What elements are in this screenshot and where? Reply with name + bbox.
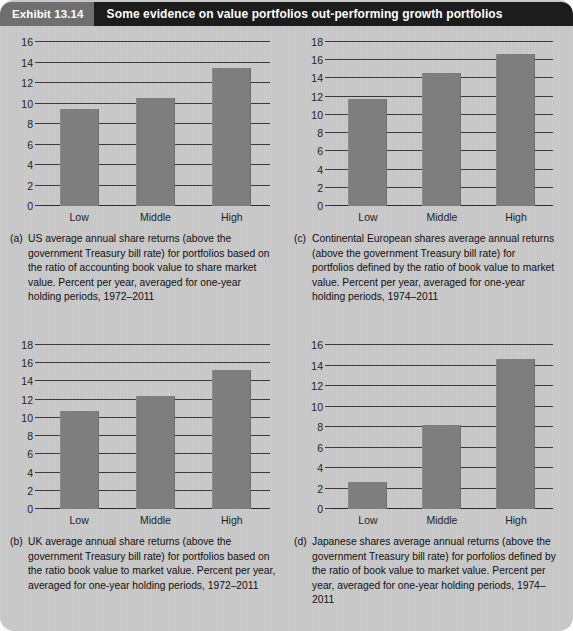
caption-label-b: (b) — [10, 535, 23, 550]
panel-d: 0246810121416 LowMiddleHigh (d) Japanese… — [290, 329, 573, 631]
bar-a-middle — [136, 98, 175, 206]
bar-a-low — [60, 109, 99, 206]
y-tick-label-12: 12 — [311, 380, 323, 392]
panel-c: 024681012141618 LowMiddleHigh (c) Contin… — [290, 26, 573, 329]
bar-slot-high — [479, 345, 553, 509]
y-tick-label-0: 0 — [27, 503, 33, 515]
x-label-a-low: Low — [41, 208, 117, 226]
y-tick-label-8: 8 — [27, 430, 33, 442]
bar-slot-middle — [117, 42, 193, 206]
bar-slot-low — [41, 345, 117, 509]
caption-d: (d) Japanese shares average annual retur… — [290, 535, 573, 608]
x-label-c-high: High — [479, 208, 553, 226]
caption-text-d: Japanese shares average annual returns (… — [312, 535, 559, 608]
bar-b-high — [212, 370, 251, 509]
caption-text-c: Continental European shares average annu… — [312, 232, 559, 305]
caption-label-d: (d) — [294, 535, 307, 550]
x-axis-labels-d: LowMiddleHigh — [331, 511, 553, 529]
y-tick-label-10: 10 — [21, 98, 33, 110]
y-tick-label-8: 8 — [317, 421, 323, 433]
x-axis-labels-b: LowMiddleHigh — [41, 511, 270, 529]
exhibit-title: Some evidence on value portfolios out-pe… — [94, 2, 573, 26]
caption-a: (a) US average annual share returns (abo… — [0, 232, 290, 305]
x-label-c-middle: Middle — [405, 208, 479, 226]
x-label-d-high: High — [479, 511, 553, 529]
x-label-b-high: High — [194, 511, 270, 529]
bar-slot-low — [331, 345, 405, 509]
y-tick-label-6: 6 — [317, 145, 323, 157]
y-tick-label-6: 6 — [317, 442, 323, 454]
plot-area-d: 0246810121416 — [331, 345, 553, 509]
y-tick-label-8: 8 — [317, 127, 323, 139]
x-label-b-middle: Middle — [117, 511, 193, 529]
chart-c: 024681012141618 LowMiddleHigh — [298, 34, 557, 230]
bar-slot-low — [41, 42, 117, 206]
y-tick-label-16: 16 — [21, 36, 33, 48]
panel-a: 0246810121416 LowMiddleHigh (a) US avera… — [0, 26, 290, 329]
y-tick-label-4: 4 — [27, 467, 33, 479]
exhibit-header: Exhibit 13.14 Some evidence on value por… — [0, 2, 573, 26]
bar-series-b — [41, 345, 270, 509]
y-tick-label-10: 10 — [311, 109, 323, 121]
y-tick-label-4: 4 — [27, 159, 33, 171]
y-tick-label-18: 18 — [21, 339, 33, 351]
bar-slot-middle — [405, 345, 479, 509]
bar-c-high — [496, 54, 535, 206]
chart-a: 0246810121416 LowMiddleHigh — [8, 34, 274, 230]
chart-d: 0246810121416 LowMiddleHigh — [298, 337, 557, 533]
y-tick-label-0: 0 — [27, 200, 33, 212]
y-tick-label-4: 4 — [317, 164, 323, 176]
y-tick-label-14: 14 — [21, 57, 33, 69]
y-tick-label-16: 16 — [21, 357, 33, 369]
bar-c-low — [348, 99, 387, 207]
y-tick-label-16: 16 — [311, 54, 323, 66]
x-label-b-low: Low — [41, 511, 117, 529]
bar-d-middle — [422, 425, 461, 509]
plot-area-b: 024681012141618 — [41, 345, 270, 509]
y-tick-label-6: 6 — [27, 448, 33, 460]
bar-slot-middle — [405, 42, 479, 206]
y-tick-label-4: 4 — [317, 462, 323, 474]
bar-a-high — [212, 68, 251, 206]
bar-slot-low — [331, 42, 405, 206]
bar-slot-high — [194, 345, 270, 509]
x-label-a-middle: Middle — [117, 208, 193, 226]
y-tick-label-12: 12 — [21, 394, 33, 406]
exhibit-figure: Exhibit 13.14 Some evidence on value por… — [0, 0, 573, 631]
y-tick-label-2: 2 — [27, 180, 33, 192]
bar-series-d — [331, 345, 553, 509]
y-tick-label-12: 12 — [21, 77, 33, 89]
chart-b: 024681012141618 LowMiddleHigh — [8, 337, 274, 533]
bar-series-a — [41, 42, 270, 206]
x-axis-labels-a: LowMiddleHigh — [41, 208, 270, 226]
y-tick-label-2: 2 — [317, 483, 323, 495]
x-label-d-low: Low — [331, 511, 405, 529]
plot-area-c: 024681012141618 — [331, 42, 553, 206]
y-tick-label-16: 16 — [311, 339, 323, 351]
caption-label-a: (a) — [10, 232, 23, 247]
bar-slot-high — [194, 42, 270, 206]
y-tick-label-12: 12 — [311, 91, 323, 103]
y-tick-label-2: 2 — [27, 485, 33, 497]
bar-c-middle — [422, 73, 461, 206]
y-tick-label-0: 0 — [317, 200, 323, 212]
x-axis-labels-c: LowMiddleHigh — [331, 208, 553, 226]
caption-c: (c) Continental European shares average … — [290, 232, 573, 305]
caption-b: (b) UK average annual share returns (abo… — [0, 535, 290, 593]
x-label-d-middle: Middle — [405, 511, 479, 529]
chart-grid: 0246810121416 LowMiddleHigh (a) US avera… — [0, 26, 573, 631]
caption-label-c: (c) — [294, 232, 306, 247]
y-tick-label-6: 6 — [27, 139, 33, 151]
bar-b-low — [60, 411, 99, 509]
bar-d-high — [496, 359, 535, 509]
y-tick-label-8: 8 — [27, 118, 33, 130]
caption-text-b: UK average annual share returns (above t… — [28, 535, 276, 593]
y-tick-label-14: 14 — [311, 72, 323, 84]
y-tick-label-10: 10 — [311, 401, 323, 413]
bar-d-low — [348, 482, 387, 509]
exhibit-number-label: Exhibit 13.14 — [0, 2, 94, 26]
x-label-a-high: High — [194, 208, 270, 226]
bar-slot-high — [479, 42, 553, 206]
y-tick-label-2: 2 — [317, 182, 323, 194]
y-tick-label-14: 14 — [311, 360, 323, 372]
